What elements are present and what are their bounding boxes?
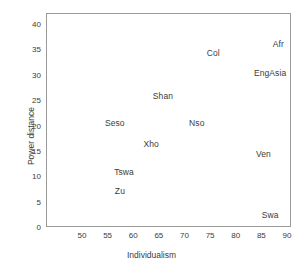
y-tick-35: 35 bbox=[32, 45, 41, 54]
y-tick-0: 0 bbox=[37, 223, 41, 232]
x-tick-55: 55 bbox=[103, 231, 112, 240]
data-point-afr: Afr bbox=[273, 39, 284, 49]
data-point-zu: Zu bbox=[115, 186, 125, 196]
x-tick-65: 65 bbox=[154, 231, 163, 240]
data-point-col: Col bbox=[207, 48, 220, 58]
data-point-tswa: Tswa bbox=[114, 167, 134, 177]
x-tick-50: 50 bbox=[78, 231, 87, 240]
data-point-shan: Shan bbox=[153, 91, 173, 101]
x-tick-70: 70 bbox=[180, 231, 189, 240]
scatter-chart-figure: AfrColEngAsiaShanSesoNsoXhoVenTswaZuSwa … bbox=[0, 0, 303, 271]
x-tick-90: 90 bbox=[283, 231, 292, 240]
y-axis-title: Power distance bbox=[26, 106, 36, 164]
data-point-engasia: EngAsia bbox=[254, 68, 286, 78]
y-tick-30: 30 bbox=[32, 70, 41, 79]
y-tick-10: 10 bbox=[32, 172, 41, 181]
x-tick-80: 80 bbox=[231, 231, 240, 240]
y-tick-25: 25 bbox=[32, 96, 41, 105]
data-point-seso: Seso bbox=[105, 118, 125, 128]
x-tick-85: 85 bbox=[257, 231, 266, 240]
data-point-swa: Swa bbox=[262, 210, 279, 220]
data-point-xho: Xho bbox=[143, 139, 158, 149]
data-point-ven: Ven bbox=[256, 149, 271, 159]
data-point-nso: Nso bbox=[189, 118, 204, 128]
y-tick-40: 40 bbox=[32, 20, 41, 29]
y-tick-5: 5 bbox=[37, 197, 41, 206]
plot-area-frame bbox=[46, 13, 291, 227]
x-tick-75: 75 bbox=[206, 231, 215, 240]
x-tick-60: 60 bbox=[129, 231, 138, 240]
x-axis-title: Individualism bbox=[0, 250, 303, 260]
